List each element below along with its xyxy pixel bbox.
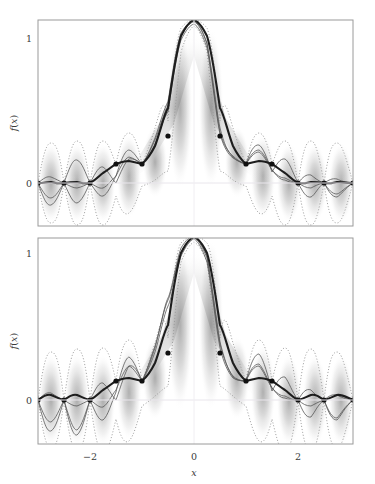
top-panel-plot-area — [35, 20, 355, 225]
data-point — [139, 161, 144, 166]
svg-text:f(x): f(x) — [8, 115, 19, 132]
bottom-panel: 1 0 f(x) −2 0 2 x — [8, 235, 356, 478]
data-point — [269, 378, 274, 383]
xtick-2: 2 — [295, 451, 301, 462]
data-point — [165, 133, 170, 138]
xtick-0: 0 — [191, 451, 197, 462]
data-point — [217, 133, 222, 138]
svg-text:f(x): f(x) — [8, 333, 19, 350]
bottom-panel-plot-area — [35, 235, 355, 452]
top-ytick-1: 1 — [26, 33, 32, 44]
data-point — [243, 161, 248, 166]
ylabel-paren-close: ) — [8, 115, 19, 119]
bottom-ytick-1: 1 — [26, 248, 32, 259]
top-ytick-0: 0 — [26, 178, 32, 189]
data-point — [217, 350, 222, 355]
data-point — [113, 378, 118, 383]
data-point — [165, 350, 170, 355]
bottom-ylabel: f(x) — [8, 333, 19, 350]
xtick-minus2: −2 — [83, 451, 97, 462]
data-point — [113, 161, 118, 166]
gaussian-process-figure: 1 0 f(x) — [0, 0, 375, 484]
xlabel: x — [191, 467, 197, 478]
top-ylabel: f(x) — [8, 115, 19, 132]
data-point — [269, 161, 274, 166]
data-point — [243, 378, 248, 383]
top-panel: 1 0 f(x) — [8, 20, 356, 226]
ylabel-paren-close: ) — [8, 333, 19, 337]
bottom-ytick-0: 0 — [26, 395, 32, 406]
data-point — [139, 378, 144, 383]
